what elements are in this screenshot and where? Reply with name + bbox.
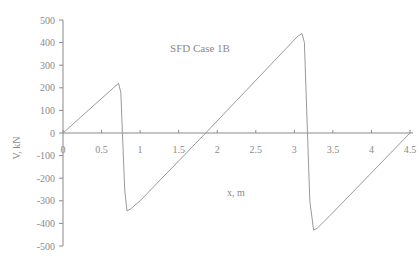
y-axis: 5004003002001000-100-200-300-400-500	[37, 15, 63, 252]
x-tick-label: 2.5	[250, 144, 263, 155]
x-tick-label: 0	[61, 144, 66, 155]
y-tick-label: -500	[37, 241, 55, 252]
y-tick-label: 100	[40, 105, 55, 116]
y-axis-title: V, kN	[11, 136, 22, 159]
y-tick-label: -400	[37, 218, 55, 229]
x-tick-label: 0.5	[95, 144, 108, 155]
y-tick-label: -100	[37, 150, 55, 161]
y-tick-label: 0	[50, 128, 55, 139]
x-tick-label: 3	[292, 144, 297, 155]
x-axis-title: x, m	[227, 187, 245, 198]
chart-title: SFD Case 1B	[170, 42, 230, 54]
x-tick-label: 4.5	[404, 144, 417, 155]
x-axis: 00.511.522.533.544.5	[61, 130, 417, 155]
x-tick-label: 3.5	[327, 144, 340, 155]
y-tick-label: 200	[40, 82, 55, 93]
y-tick-label: 300	[40, 60, 55, 71]
shear-force-chart: SFD Case 1B 5004003002001000-100-200-300…	[0, 0, 419, 260]
data-series	[63, 34, 410, 231]
shear-force-line	[63, 34, 410, 231]
x-tick-label: 1	[138, 144, 143, 155]
y-tick-label: 400	[40, 37, 55, 48]
y-tick-label: -300	[37, 195, 55, 206]
x-tick-label: 4	[369, 144, 374, 155]
x-tick-label: 2	[215, 144, 220, 155]
y-tick-label: -200	[37, 173, 55, 184]
y-tick-label: 500	[40, 15, 55, 26]
x-tick-label: 1.5	[172, 144, 185, 155]
